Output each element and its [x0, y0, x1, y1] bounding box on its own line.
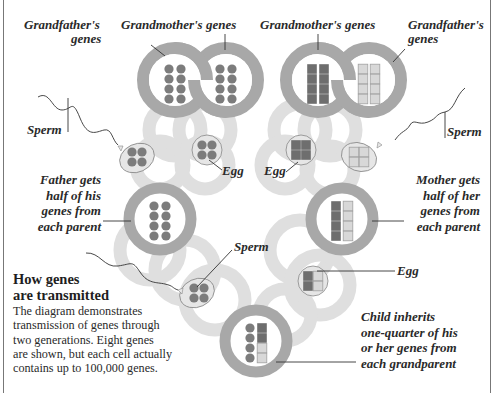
label-sperm-bottom: Sperm: [234, 240, 269, 254]
label-grandmother-left: Grandmother's genes: [121, 18, 236, 32]
egg-left-graphic: [192, 135, 222, 170]
label-egg-left: Egg: [222, 164, 244, 178]
label-mother: Mother gets half of her genes from each …: [400, 172, 480, 234]
label-sperm-left: Sperm: [27, 123, 62, 137]
gene-transmission-diagram: Grandfather's genes Grandmother's genes …: [0, 0, 496, 393]
caption-heading: How genes are transmitted: [13, 271, 109, 303]
label-egg-bottom: Egg: [397, 264, 419, 278]
child-cell-graphic: [225, 310, 356, 372]
label-grandmother-right: Grandmother's genes: [260, 18, 375, 32]
caption-body: The diagram demonstrates transmission of…: [13, 304, 193, 375]
label-egg-right: Egg: [264, 164, 286, 178]
mother-cell-graphic: [311, 188, 404, 250]
label-grandfather-left: Grandfather's genes: [24, 18, 101, 46]
maternal-grandparents: [286, 34, 405, 112]
label-sperm-right: Sperm: [447, 125, 482, 139]
label-child: Child inherits one-quarter of his or her…: [361, 309, 458, 371]
label-father: Father gets half of his genes from each …: [23, 172, 101, 234]
label-grandfather-right: Grandfather's genes: [408, 18, 484, 46]
paternal-grandparents: [143, 34, 258, 112]
